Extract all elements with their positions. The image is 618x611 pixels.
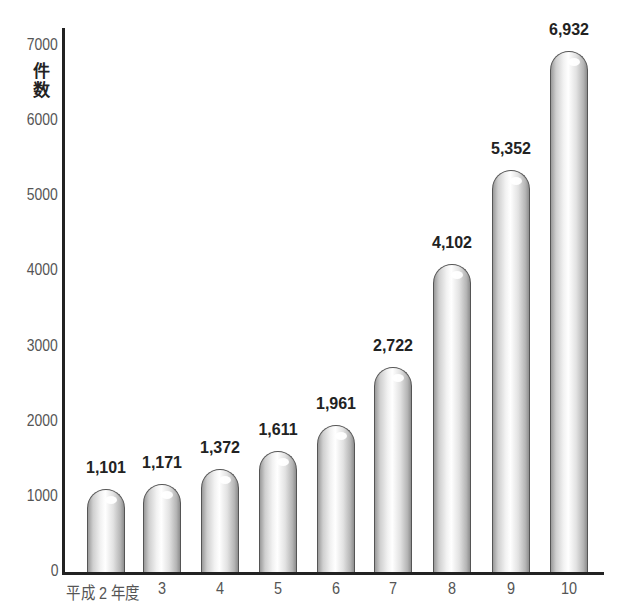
bar [317, 425, 355, 572]
bar [143, 484, 181, 572]
y-tick-label: 3000 [27, 336, 58, 356]
x-axis-line [62, 572, 604, 575]
bar-highlight [335, 432, 347, 440]
y-axis-line [62, 28, 65, 574]
bar-chart: 件 数 01000200030004000500060007000 1,1011… [0, 0, 618, 611]
value-label: 2,722 [373, 337, 413, 355]
bar-highlight [392, 374, 404, 382]
y-axis-label-char: 件 [31, 62, 51, 81]
bar [374, 367, 412, 572]
x-tick-label: 8 [448, 579, 456, 599]
value-label: 1,961 [316, 395, 356, 413]
value-label: 4,102 [432, 234, 472, 252]
x-tick-label: 5 [274, 579, 282, 599]
x-tick-label: 平成 2 年度 [66, 579, 140, 604]
y-tick-label: 4000 [27, 260, 58, 280]
bar [259, 451, 297, 572]
bar-highlight [510, 177, 522, 185]
x-tick-label: 10 [561, 579, 577, 599]
value-label: 1,372 [200, 439, 240, 457]
bar [550, 51, 588, 572]
bar [433, 264, 471, 572]
value-label: 1,171 [142, 454, 182, 472]
x-tick-label: 9 [507, 579, 515, 599]
y-tick-label: 6000 [27, 110, 58, 130]
bar [87, 489, 125, 572]
value-label: 6,932 [549, 21, 589, 39]
value-label: 1,101 [86, 459, 126, 477]
x-tick-label: 6 [332, 579, 340, 599]
value-label: 1,611 [258, 421, 297, 439]
bar-highlight [105, 496, 117, 504]
x-tick-label: 4 [216, 579, 224, 599]
value-label: 5,352 [491, 140, 531, 158]
y-axis-label: 件 数 [31, 62, 51, 100]
y-tick-label: 0 [50, 561, 58, 581]
x-tick-label: 7 [389, 579, 397, 599]
bar-highlight [277, 458, 289, 466]
bar-highlight [568, 58, 580, 66]
x-tick-label: 3 [158, 579, 166, 599]
bar [201, 469, 239, 572]
y-axis-label-char: 数 [31, 81, 51, 100]
y-tick-label: 7000 [27, 35, 58, 55]
bar [492, 170, 530, 572]
y-tick-label: 2000 [27, 411, 58, 431]
bar-highlight [161, 491, 173, 499]
bar-highlight [451, 271, 463, 279]
bar-highlight [219, 476, 231, 484]
y-tick-label: 5000 [27, 185, 58, 205]
y-tick-label: 1000 [27, 486, 58, 506]
